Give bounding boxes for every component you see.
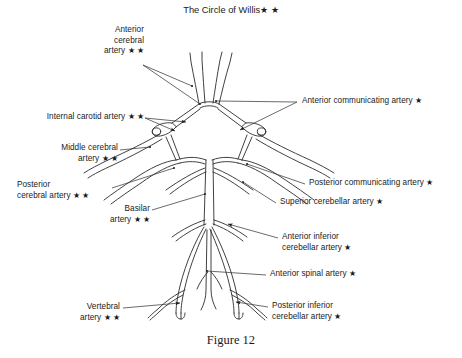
leader-anterior-cerebral-1 bbox=[143, 65, 192, 86]
middle-cerebral-artery-vessel bbox=[84, 134, 334, 178]
posterior-inferior-cerebellar-artery-vessel bbox=[148, 290, 267, 320]
superior-cerebellar-artery-vessel bbox=[166, 168, 253, 194]
label-anterior-spinal-artery: Anterior spinal artery ★ bbox=[270, 269, 356, 280]
label-vertebral-artery: Vertebral artery ★ ★ bbox=[72, 302, 120, 323]
anterior-inferior-cerebellar-artery-vessel bbox=[172, 220, 247, 241]
anterior-communicating-artery-vessel bbox=[199, 102, 219, 108]
basilar-tip-junction bbox=[176, 157, 242, 164]
leader-superior-cerebellar bbox=[243, 182, 276, 203]
label-middle-cerebral-artery: Middle cerebral artery ★ ★ bbox=[40, 143, 118, 164]
leader-anterior-cerebral-2 bbox=[143, 65, 200, 104]
leader-vertebral bbox=[123, 303, 180, 308]
basilar-artery-vessel bbox=[204, 160, 214, 225]
leader-anterior-spinal bbox=[207, 271, 266, 275]
label-anterior-cerebral-artery: Anterior cerebral artery ★ ★ bbox=[66, 25, 144, 57]
vessel-outlines bbox=[84, 52, 334, 320]
figure-canvas: The Circle of Willis★ ★ bbox=[0, 0, 462, 358]
label-anterior-inferior-cerebellar-artery: Anterior inferior cerebellar artery ★ bbox=[282, 232, 351, 253]
leader-internal-carotid-left bbox=[145, 118, 186, 122]
leader-anterior-communicating-2 bbox=[240, 102, 297, 130]
label-posterior-cerebral-artery: Posterior cerebral artery ★ ★ bbox=[17, 180, 117, 201]
internal-carotid-artery-vessel bbox=[152, 123, 265, 136]
label-posterior-communicating-artery: Posterior communicating artery ★ bbox=[309, 178, 433, 189]
leader-posterior-communicating bbox=[247, 164, 305, 184]
label-superior-cerebellar-artery: Superior cerebellar artery ★ bbox=[280, 197, 383, 208]
anterior-cerebral-artery-vessel bbox=[190, 52, 232, 104]
anterior-spinal-artery-vessel bbox=[197, 230, 222, 310]
label-basilar-artery: Basilar artery ★ ★ bbox=[104, 204, 150, 225]
label-internal-carotid-artery: Internal carotid artery ★ ★ bbox=[14, 112, 144, 123]
label-anterior-communicating-artery: Anterior communicating artery ★ bbox=[302, 96, 422, 107]
posterior-communicating-artery-vessel bbox=[166, 135, 252, 160]
leader-basilar bbox=[152, 194, 205, 210]
a1-segment-vessel bbox=[172, 104, 246, 127]
figure-caption: Figure 12 bbox=[0, 333, 462, 348]
leader-anterior-communicating bbox=[216, 101, 297, 102]
leader-posterior-inferior-cerebellar bbox=[236, 302, 268, 307]
leader-posterior-cerebral bbox=[112, 168, 174, 188]
label-posterior-inferior-cerebellar-artery: Posterior inferior cerebellar artery ★ bbox=[272, 301, 341, 322]
